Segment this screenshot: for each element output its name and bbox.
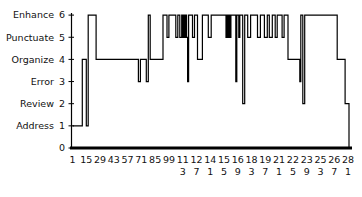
step-chart: Enhance 6 Punctuate 5 Organize 4 Error 3… — [0, 0, 362, 197]
x-tick-label-second-row: 1 — [338, 166, 358, 178]
x-tick-label: 28 — [338, 154, 358, 166]
x-tick-labels: 1152943577185991131271411551691831972112… — [0, 0, 362, 197]
